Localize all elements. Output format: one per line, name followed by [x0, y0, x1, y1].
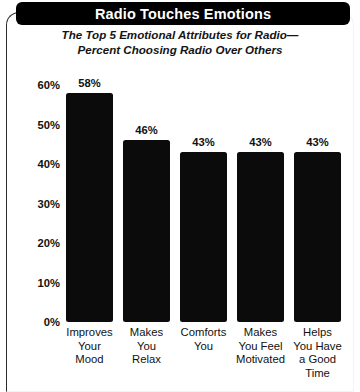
x-axis-category-label-line: You: [173, 340, 234, 354]
bar-column: 46%MakesYouRelax: [123, 0, 170, 387]
bar[interactable]: [180, 152, 227, 322]
bar-column: 58%ImprovesYourMood: [66, 0, 113, 387]
bar-value-label: 43%: [174, 136, 233, 148]
x-axis-category-label: HelpsYou Havea GoodTime: [287, 326, 348, 380]
x-axis-category-label-line: Mood: [59, 353, 120, 367]
y-axis-tick-label: 30%: [24, 198, 60, 210]
x-axis-category-label-line: Improves: [59, 326, 120, 340]
x-axis-category-label-line: You Feel: [230, 340, 291, 354]
y-axis-tick-label: 60%: [24, 79, 60, 91]
y-axis-tick-label: 0%: [24, 316, 60, 328]
bar-column: 43%MakesYou FeelMotivated: [237, 0, 284, 387]
bar-value-label: 43%: [231, 136, 290, 148]
x-axis-category-label-line: Makes: [116, 326, 177, 340]
page-title: Radio Touches Emotions: [95, 6, 271, 22]
x-axis-category-label: MakesYou FeelMotivated: [230, 326, 291, 367]
y-axis-tick-label: 50%: [24, 119, 60, 131]
y-axis-tick-label: 20%: [24, 237, 60, 249]
x-axis-category-label-line: Comforts: [173, 326, 234, 340]
bar-value-label: 43%: [288, 136, 347, 148]
chart-title-banner: Radio Touches Emotions: [16, 2, 350, 25]
x-axis-category-label-line: a Good: [287, 353, 348, 367]
x-axis-category-label-line: Time: [287, 367, 348, 381]
bar[interactable]: [66, 93, 113, 322]
bar[interactable]: [123, 140, 170, 322]
x-axis-category-label: MakesYouRelax: [116, 326, 177, 367]
x-axis-category-label-line: Makes: [230, 326, 291, 340]
x-axis-category-label: ComfortsYou: [173, 326, 234, 353]
y-axis-tick-label: 10%: [24, 277, 60, 289]
x-axis-category-label-line: Motivated: [230, 353, 291, 367]
bar-series: 58%ImprovesYourMood46%MakesYouRelax43%Co…: [66, 0, 346, 387]
x-axis-category-label-line: Your: [59, 340, 120, 354]
bar-column: 43%ComfortsYou: [180, 0, 227, 387]
bar-column: 43%HelpsYou Havea GoodTime: [294, 0, 341, 387]
x-axis-category-label: ImprovesYourMood: [59, 326, 120, 367]
x-axis-category-label-line: You Have: [287, 340, 348, 354]
bar-value-label: 46%: [117, 124, 176, 136]
x-axis-category-label-line: Relax: [116, 353, 177, 367]
y-axis: 0%10%20%30%40%50%60%: [24, 0, 60, 387]
x-axis-category-label-line: You: [116, 340, 177, 354]
bar-value-label: 58%: [60, 77, 119, 89]
y-axis-tick-label: 40%: [24, 158, 60, 170]
x-axis-category-label-line: Helps: [287, 326, 348, 340]
bar[interactable]: [294, 152, 341, 322]
bar[interactable]: [237, 152, 284, 322]
